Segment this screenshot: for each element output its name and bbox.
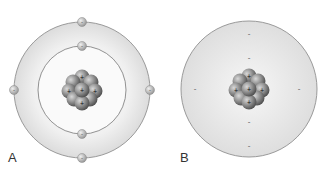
- electron-sign: -: [81, 43, 83, 49]
- atom-diagram: +++++ ------ +++++ ------: [0, 0, 328, 174]
- panel-label-a: A: [8, 150, 17, 165]
- electron-sign: -: [298, 84, 301, 93]
- panel-label-b: B: [180, 150, 189, 165]
- proton-sign: +: [247, 99, 251, 106]
- electron-sign: -: [81, 155, 83, 161]
- proton-sign: +: [80, 87, 84, 94]
- electron-sign: -: [149, 87, 151, 93]
- electron-sign: -: [13, 87, 15, 93]
- electron-sign: -: [248, 53, 251, 62]
- electron-sign: -: [248, 29, 251, 38]
- proton-sign: +: [247, 73, 251, 80]
- electron-sign: -: [248, 141, 251, 150]
- electron-sign: -: [248, 117, 251, 126]
- electron-sign: -: [81, 131, 83, 137]
- panel-b-cloud-model: +++++ ------: [181, 21, 317, 157]
- proton-sign: +: [247, 86, 251, 93]
- proton-sign: +: [80, 74, 84, 81]
- proton-sign: +: [80, 100, 84, 107]
- electron-sign: -: [81, 19, 83, 25]
- electron-sign: -: [194, 84, 197, 93]
- panel-a-bohr-model: +++++ ------: [10, 18, 155, 163]
